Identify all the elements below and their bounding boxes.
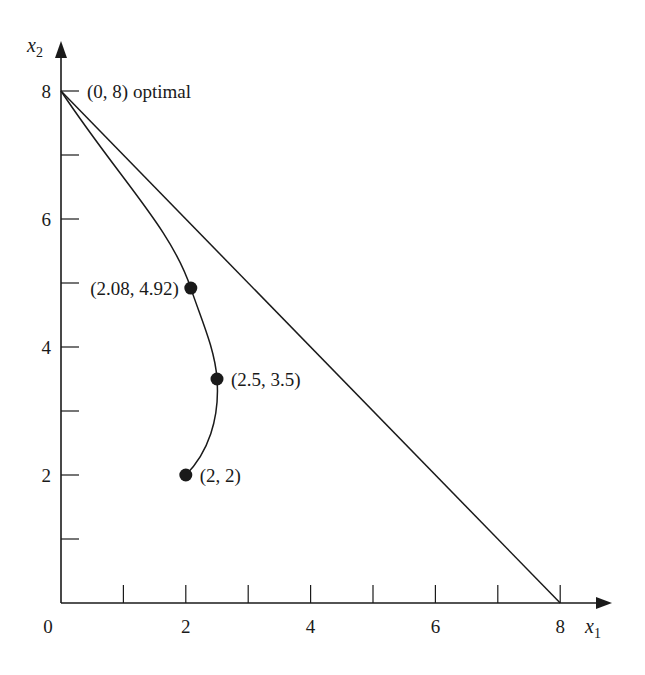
point-label: (2.5, 3.5) — [231, 369, 301, 391]
x-axis-arrow-icon — [596, 597, 612, 609]
y-tick-label: 4 — [42, 337, 52, 358]
x-axis-label: x1 — [584, 615, 601, 641]
point-label: (2, 2) — [200, 465, 241, 487]
y-tick-label: 2 — [42, 465, 52, 486]
constraint-line — [61, 91, 560, 603]
y-axis-arrow-icon — [55, 41, 67, 58]
chart: 024682468x1x2 (2.08, 4.92)(2.5, 3.5)(2, … — [0, 0, 645, 675]
data-point — [179, 469, 192, 482]
y-axis-label: x2 — [26, 34, 43, 60]
point-label: (2.08, 4.92) — [90, 278, 179, 300]
points-layer — [179, 282, 223, 482]
x-tick-label: 0 — [43, 616, 53, 637]
x-tick-label: 8 — [555, 616, 565, 637]
x-tick-label: 2 — [181, 616, 191, 637]
data-point — [184, 282, 197, 295]
data-point — [211, 373, 224, 386]
y-tick-label: 6 — [42, 209, 52, 230]
x-tick-label: 4 — [306, 616, 316, 637]
y-tick-label: 8 — [42, 81, 52, 102]
series-layer — [61, 91, 560, 603]
optimal-annotation: (0, 8) optimal — [87, 81, 191, 103]
axes: 024682468x1x2 — [26, 34, 612, 641]
x-tick-label: 6 — [431, 616, 441, 637]
